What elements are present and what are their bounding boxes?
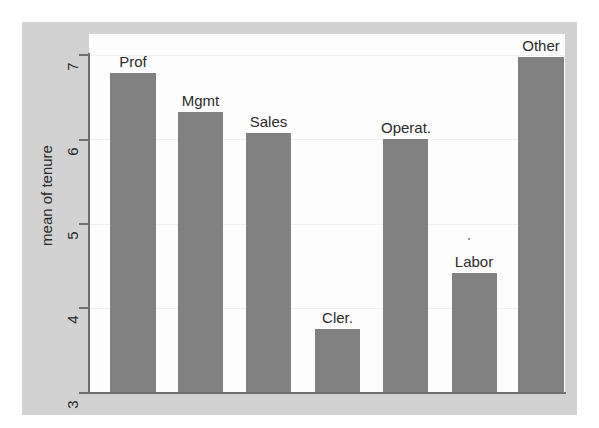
y-tick-mark-7 bbox=[79, 54, 88, 56]
bar-mgmt[interactable] bbox=[178, 112, 223, 392]
bar-operat[interactable] bbox=[383, 139, 428, 392]
y-tick-label-5: 5 bbox=[65, 232, 80, 240]
bar-label-labor: Labor bbox=[450, 253, 498, 270]
gridline-6 bbox=[89, 139, 565, 140]
bar-labor[interactable] bbox=[452, 273, 497, 392]
bar-label-sales: Sales bbox=[246, 113, 291, 130]
y-tick-label-3: 3 bbox=[65, 401, 80, 409]
bar-prof[interactable] bbox=[110, 73, 156, 392]
bar-sales[interactable] bbox=[246, 133, 291, 392]
bar-label-cler: Cler. bbox=[315, 309, 360, 326]
y-tick-label-7: 7 bbox=[65, 63, 80, 71]
bar-label-mgmt: Mgmt bbox=[178, 92, 223, 109]
y-tick-mark-5 bbox=[79, 223, 88, 225]
y-tick-mark-4 bbox=[79, 307, 88, 309]
y-tick-label-6: 6 bbox=[65, 148, 80, 156]
bar-label-other: Other bbox=[518, 37, 564, 54]
y-tick-mark-6 bbox=[79, 139, 88, 141]
bar-cler[interactable] bbox=[315, 329, 360, 392]
bar-label-operat: Operat. bbox=[380, 119, 432, 136]
bar-other[interactable] bbox=[518, 57, 564, 392]
gridline-5 bbox=[89, 224, 565, 225]
bar-label-prof: Prof bbox=[110, 53, 156, 70]
y-tick-label-4: 4 bbox=[65, 316, 80, 324]
gridline-7 bbox=[89, 55, 565, 56]
scan-artifact-speck bbox=[468, 238, 470, 240]
x-axis-line bbox=[88, 392, 566, 394]
y-axis-line bbox=[88, 53, 90, 394]
figure-panel: 7 6 5 4 3 mean of tenure Prof Mgmt Sales… bbox=[22, 22, 577, 415]
y-tick-mark-3 bbox=[79, 392, 88, 394]
y-axis-title: mean of tenure bbox=[38, 116, 55, 276]
